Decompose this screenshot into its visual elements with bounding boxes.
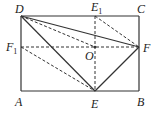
label-E: E — [90, 97, 99, 111]
segment-EF — [95, 47, 139, 91]
label-F: F — [142, 41, 151, 55]
segment-DF — [21, 16, 139, 47]
label-O: O — [85, 49, 94, 63]
label-A: A — [14, 95, 23, 109]
label-C: C — [137, 2, 146, 16]
label-E1: E1 — [90, 0, 102, 16]
dashed-E1F — [95, 16, 139, 47]
dashed-DO — [21, 16, 95, 47]
label-F1: F1 — [5, 40, 17, 56]
label-B: B — [137, 95, 145, 109]
point-O-dot — [94, 46, 97, 49]
label-D: D — [14, 2, 24, 16]
geometry-diagram: D C A B E F O E1 F1 — [0, 0, 158, 113]
